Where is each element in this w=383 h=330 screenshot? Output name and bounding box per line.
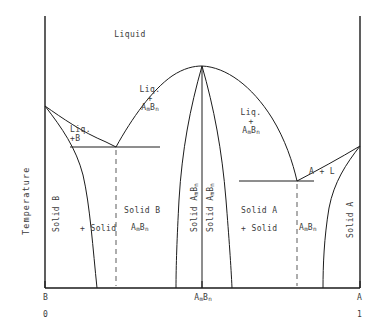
liq-left-line2: + xyxy=(140,94,161,103)
region-label-liquid: Liquid xyxy=(114,30,145,39)
phase-diagram: Temperature Liquid Liq. +B Liq. + AmBn L… xyxy=(0,0,383,330)
region-label-solid-b-plus-compound-line3: AmBn xyxy=(131,223,149,233)
x-axis-label-A: A xyxy=(357,293,362,302)
region-label-solid-a-axis: Solid A xyxy=(346,201,355,238)
liq-left-line1: Liq. xyxy=(140,85,161,94)
region-label-solid-b-plus-compound-line1: Solid B xyxy=(124,206,161,215)
x-axis-value-1: 1 xyxy=(357,310,362,319)
liq-right-line2: + xyxy=(241,117,262,126)
region-label-solid-a-plus-compound-line3: AmBn xyxy=(299,223,317,233)
region-label-liq-plus-compound-right: Liq. + AmBn xyxy=(241,108,262,136)
region-label-solid-b-plus-compound-line2: + Solid xyxy=(80,224,117,233)
phase-diagram-canvas xyxy=(0,0,383,330)
liq-plus-b-line1: Liq. xyxy=(70,125,91,134)
liq-plus-b-line2: +B xyxy=(70,134,91,143)
liq-right-line3: AmBn xyxy=(241,126,262,136)
x-axis-label-compound: AmBn xyxy=(194,293,212,303)
x-axis-label-B: B xyxy=(43,293,48,302)
region-label-solid-compound-right: Solid AmBn xyxy=(206,183,216,232)
curve-compound-solvus-right xyxy=(202,66,232,288)
region-label-liq-plus-compound-left: Liq. + AmBn xyxy=(140,85,161,113)
liq-right-line1: Liq. xyxy=(241,108,262,117)
region-label-solid-compound-left: Solid AmBn xyxy=(190,183,200,232)
region-label-solid-b-axis: Solid B xyxy=(52,195,61,232)
curve-compound-solvus-left xyxy=(176,66,202,288)
region-label-solid-a-plus-compound-line2: + Solid xyxy=(241,224,278,233)
liq-left-line3: AmBn xyxy=(140,103,161,113)
region-label-a-plus-l: A + L xyxy=(309,167,335,176)
region-label-solid-a-plus-compound-line1: Solid A xyxy=(241,206,278,215)
x-axis-value-0: 0 xyxy=(43,310,48,319)
y-axis-label: Temperature xyxy=(22,167,31,235)
region-label-liq-plus-b: Liq. +B xyxy=(70,125,91,143)
